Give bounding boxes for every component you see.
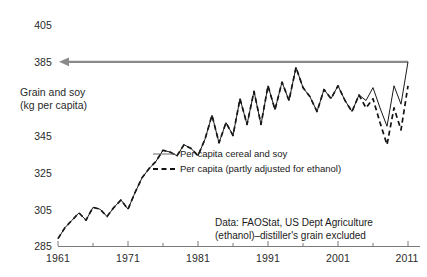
source-note-line1: Data: FAOStat, US Dept Agriculture [215,216,373,229]
legend-item-cereal-soy: Per capita cereal and soy [153,146,341,161]
trend-arrow [59,57,408,66]
legend-item-ethanol-adjusted: Per capita (partly adjusted for ethanol) [153,161,341,176]
legend-dashed-line-icon [153,164,175,174]
source-note-line2: (ethanol)–distiller's grain excluded [215,229,373,242]
source-note: Data: FAOStat, US Dept Agriculture (etha… [215,216,373,242]
legend-solid-line-icon [153,149,175,159]
legend-label-ethanol-adjusted: Per capita (partly adjusted for ethanol) [180,161,341,176]
chart-root: 405 385 345 325 305 285 Grain and soy (k… [0,0,427,277]
legend-label-cereal-soy: Per capita cereal and soy [180,146,287,161]
legend: Per capita cereal and soy Per capita (pa… [153,146,341,176]
